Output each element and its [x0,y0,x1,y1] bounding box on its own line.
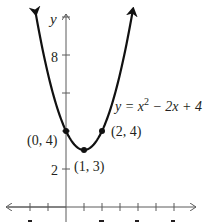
y-tick-label-2: 2 [51,163,58,178]
point-label-1-3: (1, 3) [74,159,105,175]
equation-label: y = x2 − 2x + 4 [113,96,202,114]
y-axis-label: y [48,11,57,27]
x-axis [6,203,196,211]
labeled-points: (0, 4) (1, 3) (2, 4) [27,124,142,175]
y-tick-label-8: 8 [51,50,58,65]
point-label-0-4: (0, 4) [27,133,58,149]
point-label-2-4: (2, 4) [111,124,142,140]
point-2-4 [99,128,105,134]
point-0-4 [63,128,69,134]
x-tick-labels-cutoff [28,220,175,222]
parabola-chart: y 8 2 (0, 4) (1, 3) (2, 4) y = x2 − 2x +… [0,0,206,222]
point-1-3 [81,147,87,153]
